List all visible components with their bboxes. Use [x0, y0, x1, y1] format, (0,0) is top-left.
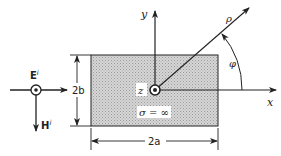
conductivity-label: σ = ∞ — [139, 107, 169, 118]
e-field-dot — [34, 88, 38, 92]
e-field-label: Ei — [30, 69, 39, 81]
z-axis-label: z — [137, 85, 144, 96]
rho-label: ρ — [225, 13, 232, 24]
h-field-label: Hi — [41, 119, 51, 131]
height-label: 2b — [72, 85, 85, 96]
width-label: 2a — [148, 136, 161, 147]
diagram-canvas: y x ρ φ z σ = ∞ 2b 2a Ei Hi — [0, 0, 281, 156]
y-axis-label: y — [140, 8, 148, 21]
z-axis-dot — [153, 88, 157, 92]
phi-label: φ — [229, 58, 236, 69]
x-axis-label: x — [267, 96, 274, 109]
